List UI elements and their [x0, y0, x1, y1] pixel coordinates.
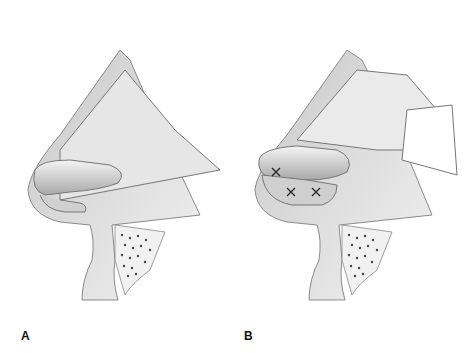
nose-illustration-a — [0, 0, 237, 353]
nose-illustration-b — [237, 0, 474, 353]
panel-a: A — [0, 0, 237, 353]
panel-label-b: B — [244, 329, 253, 343]
panel-label-a: A — [21, 329, 30, 343]
panel-b: B — [237, 0, 474, 353]
